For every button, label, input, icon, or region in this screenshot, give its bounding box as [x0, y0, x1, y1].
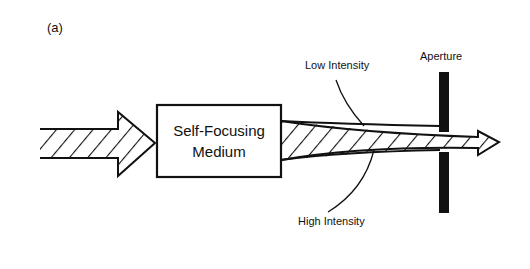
aperture-label: Aperture	[420, 50, 462, 62]
medium-label-line1: Self-Focusing	[173, 120, 265, 141]
high-intensity-leader	[328, 150, 374, 212]
medium-label-line2: Medium	[192, 141, 245, 162]
low-intensity-leader	[336, 80, 364, 126]
input-beam-arrow	[40, 112, 160, 178]
low-intensity-label: Low Intensity	[305, 59, 369, 71]
high-intensity-label: High Intensity	[298, 215, 365, 227]
medium-label: Self-Focusing Medium	[157, 105, 281, 177]
figure-label: (a)	[47, 20, 63, 35]
